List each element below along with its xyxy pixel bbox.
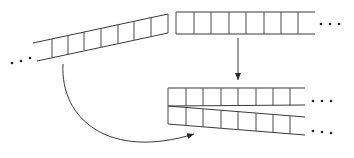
curved-arrow [63,64,194,142]
merged-lower-ellipsis [312,130,333,135]
diagram-canvas [0,0,354,158]
merged-upper-ellipsis [312,100,333,103]
left-ellipsis [11,57,32,65]
tilted-left-strip [33,14,168,61]
merged-upper-strip [168,88,305,106]
top-right-strip [176,12,315,34]
top-right-ellipsis [320,23,341,26]
merged-lower-strip [168,106,305,135]
